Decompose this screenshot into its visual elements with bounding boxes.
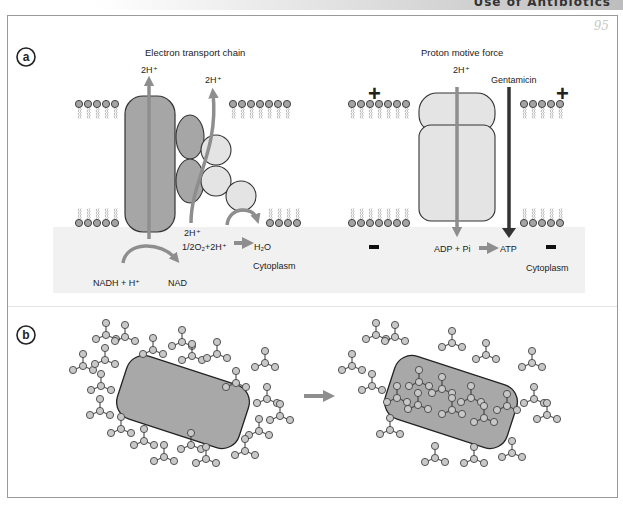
proton-label: 2H⁺ — [453, 65, 470, 75]
panel-a-label: a — [17, 48, 35, 66]
complex-ellipse — [176, 115, 204, 159]
water-label: H₂O — [254, 242, 271, 252]
membrane-top-left — [75, 100, 290, 118]
panel-b-label: b — [17, 326, 35, 344]
proton-label: 2H⁺ — [184, 228, 201, 238]
proton-label: 2H⁺ — [141, 65, 158, 75]
bacterium-before — [112, 351, 254, 453]
proton-label: 2H⁺ — [205, 75, 222, 85]
cytoplasm-region-right — [320, 227, 585, 293]
etc-title: Electron transport chain — [145, 47, 245, 58]
complex-circle — [226, 181, 256, 211]
minus-sign — [369, 245, 379, 249]
membrane-bottom-left — [75, 209, 300, 227]
figure-frame: 95 — [7, 15, 618, 498]
pmf-title: Proton motive force — [421, 47, 503, 58]
atp-label: ATP — [500, 244, 517, 254]
running-header-bar: Use of Antibiotics — [95, 0, 623, 10]
cytoplasm-label: Cytoplasm — [253, 261, 296, 271]
svg-text:b: b — [22, 328, 29, 342]
svg-text:a: a — [23, 50, 30, 64]
adp-label: ADP + Pi — [434, 244, 471, 254]
figure-svg: a Electron transport chain 2H⁺ 2H⁺ — [8, 16, 617, 497]
oxygen-reaction: 1/2O₂+2H⁺ — [182, 242, 227, 252]
water-arrow — [227, 210, 257, 225]
nad-label: NAD — [168, 278, 188, 288]
nadh-label: NADH + H⁺ — [93, 278, 140, 288]
gentamicin-label: Gentamicin — [491, 75, 537, 85]
cytoplasm-label: Cytoplasm — [526, 263, 569, 273]
running-title: Use of Antibiotics — [473, 0, 611, 9]
minus-sign — [546, 245, 556, 249]
